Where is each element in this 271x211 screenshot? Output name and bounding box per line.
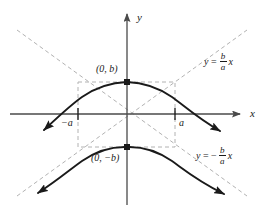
asym-pos-denominator: a (220, 62, 227, 72)
tick-label-neg-a: −a (61, 118, 73, 128)
vertex-label-upper: (0, b) (96, 64, 118, 74)
asym-pos-numerator: b (220, 52, 227, 62)
asym-neg-equals: = (203, 151, 209, 161)
hyperbola-curves (38, 82, 224, 194)
y-axis-label: y (137, 12, 142, 23)
asym-neg-y: y (196, 151, 200, 161)
asym-neg-fraction: b a (219, 146, 226, 166)
asym-neg-sign: − (211, 151, 217, 161)
hyperbola-figure: y x −a a (0, b) (0, −b) y = b a x y = − … (0, 0, 271, 211)
asym-pos-y: y (204, 57, 208, 67)
coordinate-axes (10, 14, 240, 205)
asymptote-label-negative: y = − b a x (196, 146, 232, 166)
vertex-marker-lower (124, 144, 130, 150)
vertex-marker-upper (124, 79, 130, 85)
tick-label-pos-a: a (179, 118, 184, 128)
asym-neg-denominator: a (219, 156, 226, 166)
asymptote-label-positive: y = b a x (204, 52, 233, 72)
asym-pos-variable: x (229, 57, 233, 67)
figure-canvas (0, 0, 271, 211)
asym-neg-numerator: b (219, 146, 226, 156)
asym-pos-equals: = (211, 57, 217, 67)
upper-branch-right (127, 82, 220, 131)
asym-neg-variable: x (228, 151, 232, 161)
asym-pos-fraction: b a (220, 52, 227, 72)
x-axis-label: x (250, 108, 255, 119)
vertex-label-lower: (0, −b) (91, 153, 119, 163)
upper-branch-left (44, 82, 127, 130)
